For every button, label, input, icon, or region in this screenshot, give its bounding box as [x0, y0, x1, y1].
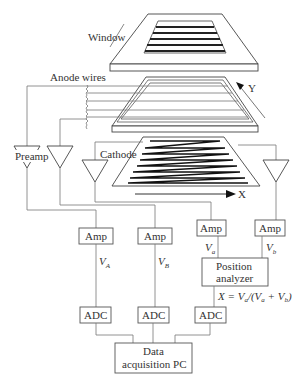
preamp-2-icon — [47, 146, 73, 168]
svg-text:Amp: Amp — [85, 230, 108, 242]
va-label: Va — [205, 241, 216, 256]
anode-plane — [87, 77, 258, 132]
svg-text:Position: Position — [216, 260, 253, 272]
y-axis-label: Y — [248, 82, 256, 94]
svg-text:acquisition PC: acquisition PC — [122, 358, 186, 370]
adc-3: ADC — [195, 307, 226, 323]
svg-text:ADC: ADC — [199, 309, 222, 321]
svg-text:ADC: ADC — [84, 309, 107, 321]
svg-text:ADC: ADC — [142, 309, 165, 321]
vb-label: Vb — [266, 241, 277, 256]
window-plate — [110, 14, 258, 71]
x-arrow-icon — [226, 190, 236, 198]
y-arrow-icon — [236, 82, 244, 90]
window-label: Window — [88, 31, 125, 43]
position-formula: X = Va/(Va + Vb) — [217, 290, 292, 304]
svg-text:analyzer: analyzer — [216, 272, 254, 284]
amp-c: Amp — [197, 220, 226, 236]
cathode-plane — [112, 137, 260, 186]
svg-text:Amp: Amp — [200, 222, 223, 234]
preamp-label: Preamp — [15, 150, 49, 162]
preamp-3-icon — [82, 160, 108, 182]
va-cap-label: VA — [99, 255, 111, 270]
vb-cap-label: VB — [158, 255, 170, 270]
svg-text:Amp: Amp — [259, 222, 282, 234]
preamp-4-icon — [263, 160, 289, 182]
svg-text:Data: Data — [143, 345, 164, 357]
adc-1: ADC — [80, 307, 111, 323]
cathode-label: Cathode — [100, 148, 137, 160]
amp-d: Amp — [255, 220, 285, 236]
detector-diagram: Window Anode wires Y Cathode X Preamp — [0, 0, 300, 385]
svg-text:Amp: Amp — [144, 230, 167, 242]
resistor-chain-icon — [86, 85, 88, 129]
x-axis-label: X — [238, 188, 246, 200]
amp-b: Amp — [138, 228, 172, 244]
adc-2: ADC — [138, 307, 169, 323]
amp-a: Amp — [79, 228, 113, 244]
position-analyzer: Position analyzer — [202, 258, 268, 286]
data-acquisition-pc: Data acquisition PC — [115, 343, 192, 373]
anode-wires-label: Anode wires — [50, 71, 106, 83]
